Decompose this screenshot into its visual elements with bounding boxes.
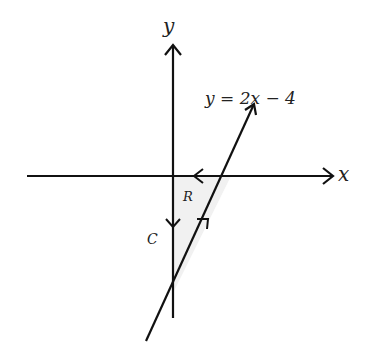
x-axis-label: x xyxy=(338,162,349,186)
region-label: R xyxy=(183,189,193,204)
line-equation-label: y = 2x − 4 xyxy=(205,88,296,108)
diagram-canvas: y x y = 2x − 4 R C xyxy=(0,0,380,353)
line-y-2x-4 xyxy=(146,104,254,341)
diagram-svg xyxy=(0,0,380,353)
y-axis-label: y xyxy=(163,14,174,38)
curve-label: C xyxy=(147,231,158,247)
